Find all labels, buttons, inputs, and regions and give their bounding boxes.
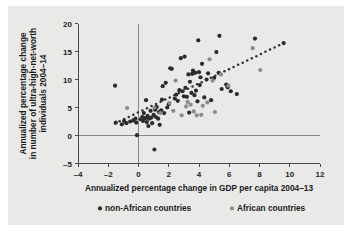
data-point [161,84,165,88]
legend-label-non_african: non-African countries [105,203,192,213]
y-axis-title-line: Annualized percentage change [18,32,28,155]
x-axis-title: Annualized percentage change in GDP per … [85,183,313,193]
data-point [171,109,175,113]
trendline-dot [164,98,167,101]
y-axis-ticks: –505101520 [63,20,78,169]
trendline-dot [273,46,276,49]
trendline-dot [210,77,213,80]
data-point [197,70,201,74]
data-point [199,113,203,117]
data-point [124,121,128,125]
trendline-dot [237,64,240,67]
trendline-dot [155,103,158,106]
trendline-dot [127,116,130,119]
x-tick-label: 6 [227,170,232,179]
trendline-dot [241,61,244,64]
data-point [258,68,262,72]
y-axis-title: Annualized percentage changein number of… [18,28,48,159]
data-point [253,37,257,41]
data-point [167,101,171,105]
data-point [158,111,162,115]
data-point [198,75,202,79]
data-point [202,95,206,99]
legend-marker-non_african [98,206,102,210]
data-point [149,109,153,113]
data-point [184,104,188,108]
data-point [183,86,187,90]
data-point [180,113,184,117]
data-point [193,71,197,75]
y-tick-label: 0 [68,132,73,141]
trendline-dot [260,53,263,56]
trendline-dot [146,107,149,110]
data-point [196,38,200,42]
trendline-dot [269,48,272,51]
x-tick-label: –4 [74,170,83,179]
data-point [164,81,168,85]
data-point [152,105,156,109]
data-point [170,67,174,71]
data-point [186,72,190,76]
y-tick-label: –5 [63,160,72,169]
data-point [211,79,215,83]
trendline-dot [118,120,121,123]
x-axis-ticks: –4–2024681012 [74,164,325,179]
trendline-dot [255,55,258,58]
x-tick-label: 2 [167,170,172,179]
scatter-chart: –4–2024681012 –505101520 Annualized perc… [0,0,352,231]
data-point [144,98,148,102]
data-point [113,84,117,88]
trendline-dot [246,59,249,62]
data-point [188,80,192,84]
data-point [214,50,218,54]
data-point [174,93,178,97]
y-tick-label: 20 [63,20,72,29]
data-point [219,72,223,76]
data-point [226,84,230,88]
data-point [176,99,180,103]
trendline-dot [251,57,254,60]
data-point [217,34,221,38]
data-point [114,121,118,125]
data-point [185,95,189,99]
data-point [235,92,239,96]
data-point [135,133,139,137]
figure-container: –4–2024681012 –505101520 Annualized perc… [0,0,352,231]
legend-marker-african [230,206,234,210]
data-point [156,117,160,121]
x-tick-label: 0 [136,170,141,179]
data-point [195,99,199,103]
y-tick-label: 15 [63,48,72,57]
x-tick-label: –2 [104,170,113,179]
trendline-dot [264,51,267,54]
data-point [125,106,129,110]
legend: non-African countriesAfrican countries [98,203,306,213]
data-point [134,121,138,125]
y-tick-label: 5 [68,104,73,113]
data-point [160,98,164,102]
data-point [192,93,196,97]
data-point [179,56,183,60]
data-point [150,121,154,125]
data-point [198,83,202,87]
data-point [192,109,196,113]
trendline-dot [228,68,231,71]
x-tick-label: 8 [257,170,262,179]
data-point [206,71,210,75]
legend-label-african: African countries [237,203,306,213]
data-point [162,111,166,115]
data-point [195,113,199,117]
data-point [229,89,233,93]
data-point [282,41,286,45]
x-tick-label: 10 [285,170,294,179]
data-point [194,89,198,93]
trendline-dot [200,81,203,84]
data-point [213,110,217,114]
data-point [152,147,156,151]
y-axis-title-line: individuals 2004–14 [38,54,48,132]
y-axis-title-line: in number of ultra-high-net-worth [28,28,38,159]
trendline-dot [223,70,226,73]
data-point [146,124,150,128]
x-tick-label: 12 [316,170,325,179]
data-point [201,104,205,108]
